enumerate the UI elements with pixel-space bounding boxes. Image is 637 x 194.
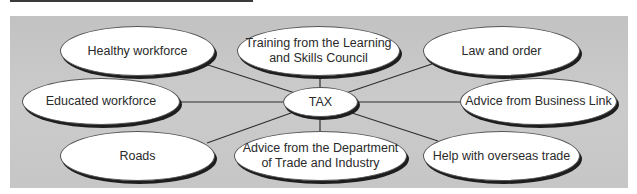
node-law-and-order: Law and order xyxy=(423,26,580,76)
node-advice-business-link: Advice from Business Link xyxy=(460,78,617,125)
node-educated-workforce: Educated workforce xyxy=(22,78,180,125)
node-label-line1: Training from the Learning xyxy=(245,36,391,51)
center-label: TAX xyxy=(309,95,332,110)
node-advice-dti: Advice from the Department of Trade and … xyxy=(234,131,407,181)
node-help-overseas-trade: Help with overseas trade xyxy=(423,131,580,181)
node-label-line2: and Skills Council xyxy=(245,51,391,66)
node-label-line1: Advice from the Department xyxy=(243,141,399,156)
node-label: Law and order xyxy=(462,44,542,59)
node-label: Help with overseas trade xyxy=(433,149,571,164)
node-label: Educated workforce xyxy=(46,94,156,109)
node-healthy-workforce: Healthy workforce xyxy=(60,26,215,76)
node-label-line2: of Trade and Industry xyxy=(243,156,399,171)
node-label: Advice from Business Link xyxy=(465,94,612,109)
node-label: Healthy workforce xyxy=(87,44,187,59)
node-training-lsc: Training from the Learning and Skills Co… xyxy=(237,26,400,76)
node-tax-center: TAX xyxy=(283,87,358,117)
node-label: Roads xyxy=(119,149,155,164)
node-roads: Roads xyxy=(60,131,215,181)
